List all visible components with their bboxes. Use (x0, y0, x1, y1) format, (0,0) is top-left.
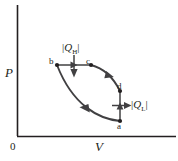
state-point-label-a: a (117, 122, 121, 131)
heat-in-bar-right: | (77, 41, 79, 53)
heat-out-symbol: Q (133, 98, 141, 110)
heat-in-symbol: Q (64, 41, 72, 53)
origin-label: 0 (10, 141, 16, 152)
heat-in-arrowhead-icon (70, 69, 77, 78)
state-point-b (55, 63, 59, 67)
x-axis-label: V (95, 140, 103, 153)
state-point-label-c: c (86, 57, 90, 66)
y-axis-label: P (5, 66, 13, 79)
pv-diagram-figure: P V 0 b c d a |QH| |QL| (0, 0, 178, 161)
state-point-label-b: b (49, 57, 54, 66)
heat-in-label: |QH| (62, 42, 79, 53)
state-point-label-d: d (117, 82, 122, 91)
heat-out-label: |QL| (131, 99, 148, 110)
process-a-to-b (57, 65, 120, 121)
heat-out-bar-right: | (145, 98, 147, 110)
pv-diagram-canvas (0, 0, 178, 161)
